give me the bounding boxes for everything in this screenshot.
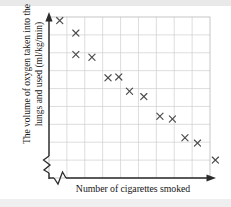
- grid-lines: [49, 17, 210, 178]
- data-point-marker: [182, 135, 188, 141]
- data-point-marker: [105, 75, 111, 81]
- x-axis-arrowhead: [207, 174, 217, 181]
- data-point-marker: [169, 116, 175, 122]
- plot-area-border: [49, 17, 210, 178]
- data-points: [57, 17, 219, 163]
- data-point-marker: [73, 51, 79, 57]
- y-axis-label: The volume of oxygen taken into the lung…: [21, 0, 45, 154]
- data-point-marker: [157, 113, 163, 119]
- y-axis-label-line2: lungs and used (ml/kg/min): [33, 0, 45, 154]
- x-axis-label: Number of cigarettes smoked: [49, 183, 217, 194]
- data-point-marker: [116, 74, 122, 80]
- y-axis-label-line1: The volume of oxygen taken into the: [21, 0, 33, 154]
- data-point-marker: [73, 30, 79, 36]
- data-point-marker: [89, 54, 95, 60]
- figure-scatter-plot: The volume of oxygen taken into the lung…: [0, 0, 231, 207]
- data-point-marker: [126, 88, 132, 94]
- data-point-marker: [212, 157, 218, 163]
- data-point-marker: [194, 140, 200, 146]
- data-point-marker: [141, 94, 147, 100]
- data-point-marker: [57, 17, 63, 23]
